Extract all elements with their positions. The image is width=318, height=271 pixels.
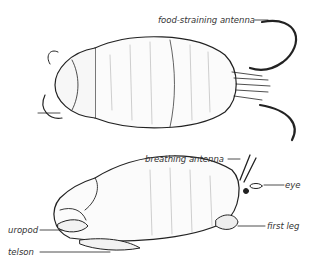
label-telson: telson: [8, 247, 34, 257]
label-first-leg: first leg: [267, 221, 299, 231]
top-view-body: [43, 21, 296, 140]
side-view-body: [54, 155, 262, 250]
label-eye: eye: [285, 180, 301, 190]
label-food-straining-antenna: food-straining antenna: [158, 15, 255, 25]
label-breathing-antenna: breathing antenna: [145, 154, 224, 164]
label-uropod: uropod: [8, 225, 38, 235]
